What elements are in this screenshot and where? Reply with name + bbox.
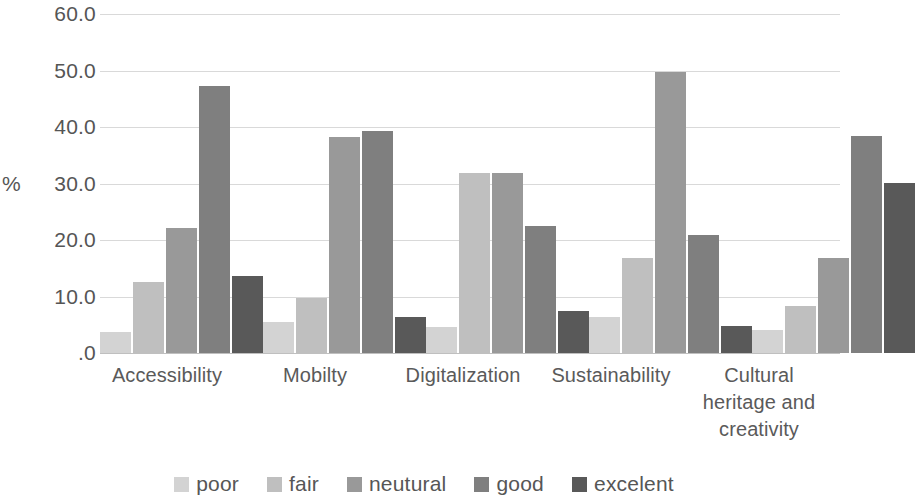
x-axis-category-label: Sustainability bbox=[544, 362, 692, 443]
legend-item-poor[interactable]: poor bbox=[174, 472, 239, 496]
x-axis-category-label: Mobilty bbox=[248, 362, 396, 443]
y-axis-tick: 30.0 bbox=[18, 172, 96, 196]
legend-swatch-icon bbox=[572, 477, 587, 492]
legend: poorfairneuturalgoodexcelent bbox=[0, 472, 848, 496]
bar-group bbox=[752, 0, 915, 353]
x-axis-category-label: Digitalization bbox=[396, 362, 544, 443]
y-axis-tick: 10.0 bbox=[18, 285, 96, 309]
bar-poor[interactable] bbox=[100, 332, 131, 353]
bar-neutural[interactable] bbox=[329, 137, 360, 353]
legend-item-fair[interactable]: fair bbox=[267, 472, 319, 496]
legend-label: excelent bbox=[594, 472, 674, 496]
legend-label: neutural bbox=[369, 472, 447, 496]
legend-swatch-icon bbox=[267, 477, 282, 492]
bar-good[interactable] bbox=[362, 131, 393, 353]
bar-fair[interactable] bbox=[459, 173, 490, 353]
axis-baseline bbox=[100, 353, 840, 354]
bar-good[interactable] bbox=[851, 136, 882, 353]
bar-group bbox=[426, 0, 589, 353]
bar-fair[interactable] bbox=[296, 298, 327, 353]
bar-excelent[interactable] bbox=[395, 317, 426, 353]
x-axis-category-label: Cultural heritage and creativity bbox=[692, 362, 840, 443]
legend-swatch-icon bbox=[347, 477, 362, 492]
legend-label: poor bbox=[196, 472, 239, 496]
bar-poor[interactable] bbox=[589, 317, 620, 353]
y-axis-tick: 40.0 bbox=[18, 115, 96, 139]
bar-group bbox=[589, 0, 752, 353]
bar-group bbox=[263, 0, 426, 353]
plot-area bbox=[100, 0, 840, 353]
bar-poor[interactable] bbox=[752, 330, 783, 353]
bar-excelent[interactable] bbox=[232, 276, 263, 353]
legend-label: fair bbox=[289, 472, 319, 496]
legend-item-good[interactable]: good bbox=[474, 472, 544, 496]
legend-item-excelent[interactable]: excelent bbox=[572, 472, 674, 496]
bar-excelent[interactable] bbox=[721, 326, 752, 353]
bar-excelent[interactable] bbox=[884, 183, 915, 353]
bar-neutural[interactable] bbox=[818, 258, 849, 353]
bar-neutural[interactable] bbox=[492, 173, 523, 353]
x-axis-category-labels: AccessibilityMobiltyDigitalizationSustai… bbox=[100, 362, 840, 443]
y-axis-tick: 60.0 bbox=[18, 2, 96, 26]
legend-item-neutural[interactable]: neutural bbox=[347, 472, 447, 496]
legend-swatch-icon bbox=[174, 477, 189, 492]
bar-groups bbox=[100, 0, 840, 353]
bar-good[interactable] bbox=[199, 86, 230, 353]
bar-fair[interactable] bbox=[622, 258, 653, 353]
y-axis-tick: 20.0 bbox=[18, 228, 96, 252]
legend-label: good bbox=[496, 472, 544, 496]
bar-excelent[interactable] bbox=[558, 311, 589, 353]
x-axis-category-label: Accessibility bbox=[100, 362, 248, 443]
bar-neutural[interactable] bbox=[166, 228, 197, 353]
y-axis-tick: 50.0 bbox=[18, 59, 96, 83]
bar-fair[interactable] bbox=[785, 306, 816, 353]
bar-neutural[interactable] bbox=[655, 72, 686, 353]
legend-swatch-icon bbox=[474, 477, 489, 492]
bar-fair[interactable] bbox=[133, 282, 164, 353]
y-axis-tick: .0 bbox=[18, 341, 96, 365]
bar-good[interactable] bbox=[688, 235, 719, 353]
bar-poor[interactable] bbox=[263, 322, 294, 353]
bar-poor[interactable] bbox=[426, 327, 457, 353]
bar-good[interactable] bbox=[525, 226, 556, 353]
bar-group bbox=[100, 0, 263, 353]
